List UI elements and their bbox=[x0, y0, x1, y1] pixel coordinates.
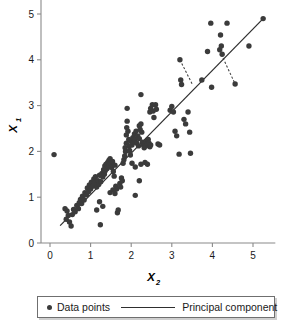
data-point bbox=[148, 142, 153, 147]
data-point bbox=[138, 92, 143, 97]
data-point bbox=[183, 121, 188, 126]
chart-legend: Data points Principal component bbox=[37, 296, 275, 318]
data-point bbox=[169, 104, 174, 109]
legend-entry-data-points: Data points bbox=[47, 301, 110, 313]
data-point bbox=[224, 20, 229, 25]
data-point bbox=[111, 169, 116, 174]
data-point bbox=[136, 143, 141, 148]
data-point bbox=[199, 77, 204, 82]
data-point bbox=[68, 223, 73, 228]
data-point bbox=[246, 43, 251, 48]
y-axis-tick-label: 2 bbox=[28, 146, 34, 157]
data-point bbox=[157, 142, 162, 147]
data-point bbox=[219, 43, 224, 48]
legend-label-principal-component: Principal component bbox=[182, 301, 277, 313]
data-point bbox=[124, 118, 129, 123]
y-axis-title: X1 bbox=[7, 118, 23, 134]
data-point bbox=[124, 106, 129, 111]
data-point bbox=[94, 207, 99, 212]
principal-component-line bbox=[60, 19, 263, 226]
data-point bbox=[137, 178, 142, 183]
data-point bbox=[154, 107, 159, 112]
scatter-plot-figure: 012345012345X1X2 Data points Principal c… bbox=[0, 0, 289, 324]
data-point bbox=[133, 193, 138, 198]
y-axis-tick-label: 3 bbox=[28, 100, 34, 111]
y-axis-tick-label: 4 bbox=[28, 54, 34, 65]
data-point bbox=[133, 164, 138, 169]
legend-label-data-points: Data points bbox=[57, 301, 110, 313]
y-axis-tick-label: 1 bbox=[28, 192, 34, 203]
x-axis-title-subscript: 2 bbox=[155, 278, 161, 287]
data-point bbox=[111, 173, 116, 178]
data-point bbox=[128, 152, 133, 157]
data-point bbox=[51, 152, 56, 157]
data-point bbox=[153, 102, 158, 107]
data-point bbox=[179, 82, 184, 87]
y-axis-title-subscript: 1 bbox=[14, 118, 23, 122]
data-point bbox=[98, 222, 103, 227]
data-point bbox=[81, 197, 86, 202]
plot-canvas: 012345012345X1X2 bbox=[0, 0, 289, 292]
data-point bbox=[172, 129, 177, 134]
data-point bbox=[185, 109, 190, 114]
data-point bbox=[208, 20, 213, 25]
data-point bbox=[260, 16, 265, 21]
data-point bbox=[178, 77, 183, 82]
data-point bbox=[64, 208, 69, 213]
data-point bbox=[187, 129, 192, 134]
data-point bbox=[122, 153, 127, 158]
data-point bbox=[145, 162, 150, 167]
y-axis-tick-label: 5 bbox=[28, 9, 34, 20]
legend-line-marker-icon bbox=[121, 307, 175, 308]
data-point bbox=[118, 184, 123, 189]
data-point bbox=[181, 117, 186, 122]
data-point bbox=[188, 151, 193, 156]
projection-residual-2 bbox=[221, 54, 235, 84]
x-axis-title-text: X bbox=[146, 271, 156, 283]
x-axis-tick-label: 2 bbox=[128, 250, 134, 261]
data-point bbox=[127, 148, 132, 153]
data-point bbox=[177, 57, 182, 62]
data-point bbox=[112, 162, 117, 167]
x-axis-tick-label: 4 bbox=[210, 250, 216, 261]
data-point bbox=[174, 133, 179, 138]
data-point bbox=[138, 121, 143, 126]
data-point bbox=[125, 129, 130, 134]
data-point bbox=[100, 204, 105, 209]
data-point bbox=[112, 191, 117, 196]
legend-dot-marker-icon bbox=[47, 305, 52, 310]
y-axis-title-text: X bbox=[7, 124, 19, 134]
x-axis-tick-label: 5 bbox=[250, 250, 256, 261]
data-point bbox=[120, 178, 125, 183]
x-axis-title: X2 bbox=[146, 271, 161, 287]
data-point bbox=[232, 81, 237, 86]
data-point bbox=[205, 49, 210, 54]
y-axis-tick-label: 0 bbox=[28, 238, 34, 249]
data-point bbox=[219, 52, 224, 57]
data-point bbox=[176, 151, 181, 156]
legend-entry-principal-component: Principal component bbox=[110, 301, 277, 313]
data-point bbox=[151, 115, 156, 120]
data-point bbox=[139, 129, 144, 134]
x-axis-tick-label: 1 bbox=[88, 250, 94, 261]
data-point bbox=[97, 199, 102, 204]
x-axis-tick-label: 0 bbox=[47, 250, 53, 261]
data-point bbox=[116, 207, 121, 212]
data-point bbox=[218, 32, 223, 37]
data-point bbox=[171, 109, 176, 114]
data-point bbox=[209, 85, 214, 90]
x-axis-tick-label: 3 bbox=[169, 250, 175, 261]
data-point bbox=[76, 206, 81, 211]
